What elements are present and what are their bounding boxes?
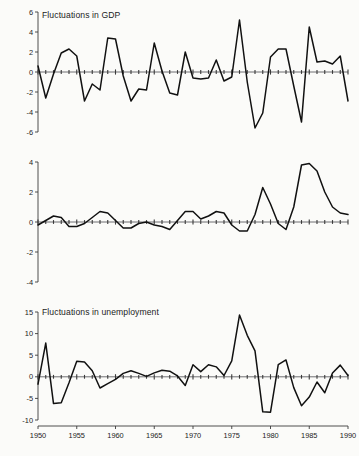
svg-text:1985: 1985 [301,431,317,440]
svg-text:4: 4 [29,158,33,167]
svg-text:10: 10 [25,329,33,338]
svg-text:0: 0 [29,68,33,77]
svg-text:6: 6 [29,8,33,17]
svg-text:1975: 1975 [224,431,240,440]
panel-gdp: Fluctuations in GDP -6-4-20246 [0,0,359,150]
svg-text:-6: -6 [26,128,33,137]
inflation-line-chart: -10-505101519501955196019651970197519801… [0,300,359,456]
svg-text:15: 15 [25,308,33,317]
svg-text:1965: 1965 [146,431,162,440]
unemployment-line-chart: -4-2024 [0,150,359,300]
gdp-line-chart: -6-4-20246 [0,0,359,150]
svg-text:2: 2 [29,188,33,197]
svg-text:-10: -10 [22,416,33,425]
svg-text:-5: -5 [26,394,33,403]
svg-text:1950: 1950 [30,431,46,440]
svg-text:0: 0 [29,218,33,227]
svg-text:-2: -2 [26,248,33,257]
svg-text:-4: -4 [26,278,33,287]
panel-unemployment: Fluctuations in unemployment -4-2024 [0,150,359,300]
svg-text:5: 5 [29,351,33,360]
svg-text:1955: 1955 [69,431,85,440]
svg-text:1980: 1980 [262,431,278,440]
svg-text:1990: 1990 [340,431,356,440]
panel-inflation: Fluctuations in inflation -10-5051015195… [0,300,359,456]
svg-text:2: 2 [29,48,33,57]
svg-text:0: 0 [29,372,33,381]
svg-text:-4: -4 [26,108,33,117]
svg-text:1960: 1960 [107,431,123,440]
economic-fluctuations-figure: Fluctuations in GDP -6-4-20246 Fluctuati… [0,0,359,456]
svg-text:-2: -2 [26,88,33,97]
svg-text:4: 4 [29,28,33,37]
svg-text:1970: 1970 [185,431,201,440]
